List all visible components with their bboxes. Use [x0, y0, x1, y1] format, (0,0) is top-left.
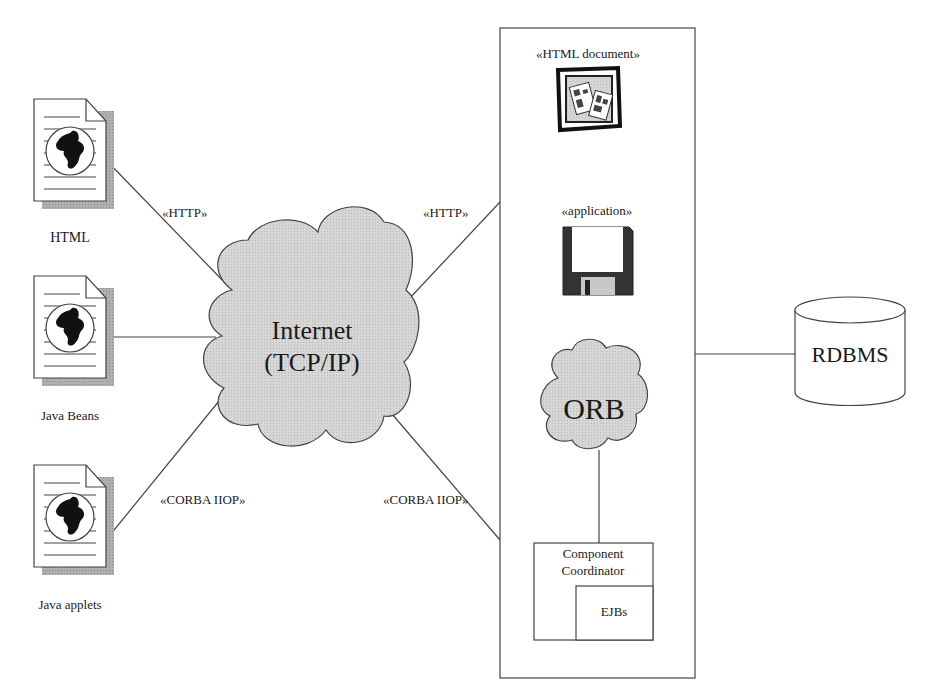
- diagram-canvas: [0, 0, 927, 697]
- java-beans-client-label: Java Beans: [41, 408, 99, 424]
- floppy-disk-icon: [563, 227, 633, 295]
- java-applets-client-label: Java applets: [38, 597, 101, 613]
- html-client-label: HTML: [50, 230, 90, 246]
- java-beans-client-icon: [34, 276, 114, 386]
- tcpip-label: (TCP/IP): [264, 348, 359, 378]
- java-applets-client-icon: [34, 465, 114, 575]
- application-label: «application»: [562, 203, 633, 219]
- html-document-label: «HTML document»: [536, 46, 640, 62]
- internet-label: Internet: [272, 316, 353, 346]
- html-document-icon: [558, 68, 620, 130]
- ejbs-label: EJBs: [601, 604, 628, 620]
- http-label-left: «HTTP»: [162, 205, 208, 221]
- http-label-right: «HTTP»: [423, 205, 469, 221]
- corba-label-left: «CORBA IIOP»: [160, 492, 246, 508]
- coordinator-label: Coordinator: [562, 563, 625, 579]
- corba-label-right: «CORBA IIOP»: [383, 492, 469, 508]
- component-label: Component: [563, 546, 624, 562]
- orb-label: ORB: [563, 392, 625, 426]
- html-client-icon: [34, 99, 114, 209]
- rdbms-label: RDBMS: [811, 342, 888, 368]
